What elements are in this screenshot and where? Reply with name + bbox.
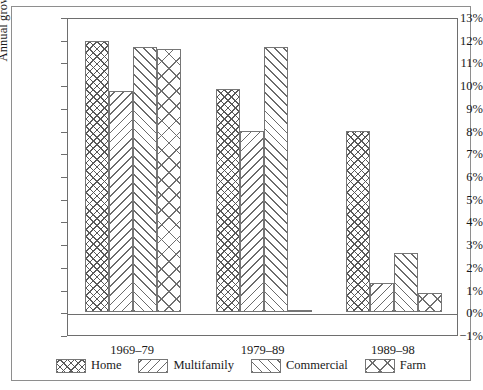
bar-home-1979-89 [216,89,240,313]
bar-farm-1989-98 [418,293,442,312]
plot-area [67,18,458,336]
chart-legend: HomeMultifamilyCommercialFarm [11,358,471,373]
bar-home-1969-79 [85,41,109,312]
bar-home-1989-98 [346,131,370,313]
bar-commercial-1979-89 [264,47,288,313]
legend-label: Commercial [286,358,348,373]
x-tick-label: 1969–79 [110,343,154,358]
legend-label: Multifamily [173,358,233,373]
x-tick-label: 1979–89 [241,343,285,358]
bar-commercial-1969-79 [133,47,157,313]
bar-commercial-1989-98 [394,253,418,312]
legend-swatch-home-icon [56,359,86,373]
y-tick-mark [61,336,67,337]
legend-swatch-multifamily-icon [138,359,168,373]
x-tick-label: 1989–98 [371,343,415,358]
bar-multifamily-1989-98 [370,283,394,313]
zero-baseline [68,314,457,315]
legend-swatch-farm-icon [365,359,395,373]
bar-multifamily-1979-89 [240,131,264,313]
legend-swatch-commercial-icon [251,359,281,373]
legend-label: Home [91,358,122,373]
legend-item-farm[interactable]: Farm [365,358,426,373]
legend-item-home[interactable]: Home [56,358,122,373]
legend-item-multifamily[interactable]: Multifamily [138,358,233,373]
y-axis-label: Annual growth rate [0,0,11,92]
bar-multifamily-1969-79 [109,91,133,312]
bar-farm-1969-79 [157,49,181,312]
chart-figure: Annual growth rate −1%0%1%2%3%4%5%6%7%8%… [0,0,483,390]
legend-label: Farm [400,358,426,373]
bar-farm-1979-89 [288,310,312,312]
legend-item-commercial[interactable]: Commercial [251,358,348,373]
